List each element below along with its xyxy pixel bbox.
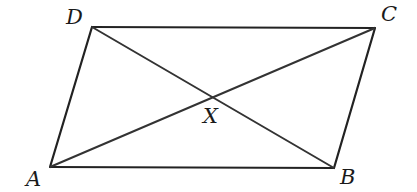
side-ab — [50, 167, 334, 168]
vertex-label-c: C — [381, 2, 397, 26]
vertex-label-b: B — [339, 165, 355, 189]
diagonal-db — [92, 27, 334, 168]
diagram-svg: D C A B X — [0, 0, 417, 192]
vertex-label-a: A — [24, 167, 41, 191]
intersection-label-x: X — [201, 104, 219, 128]
side-da — [50, 27, 92, 167]
side-bc — [334, 28, 375, 168]
side-cd — [92, 27, 375, 28]
parallelogram-diagram: D C A B X — [0, 0, 417, 192]
vertex-label-d: D — [65, 5, 83, 29]
